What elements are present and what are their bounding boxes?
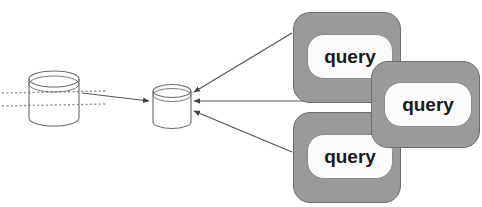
diagram-canvas: query query query: [0, 0, 482, 207]
query-label: query: [324, 47, 376, 66]
query-label: query: [324, 147, 376, 166]
edge-query-bottom-to-target: [194, 111, 292, 152]
source-database-cylinder: [29, 71, 79, 126]
edge-source-to-target: [82, 93, 149, 101]
query-card-right[interactable]: query: [371, 61, 480, 148]
edge-query-top-to-target: [194, 33, 292, 92]
query-label: query: [402, 95, 454, 114]
target-database-cylinder: [153, 85, 191, 129]
dotted-guide-lower: [2, 104, 107, 106]
query-label-container: query: [384, 82, 472, 127]
